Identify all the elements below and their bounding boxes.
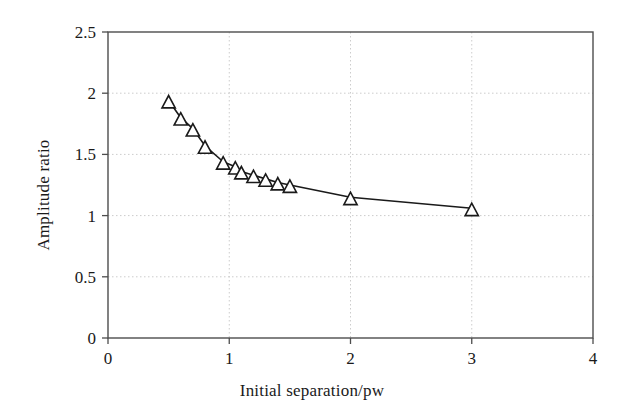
x-tick-label: 1 (225, 349, 234, 368)
amplitude-ratio-line-chart: 0123400.511.522.5 (0, 0, 624, 417)
x-axis-title: Initial separation/pw (0, 381, 624, 401)
y-tick-label: 0.5 (75, 268, 96, 287)
x-tick-label: 2 (346, 349, 355, 368)
data-marker-triangle (465, 203, 478, 215)
data-marker-triangle (198, 141, 211, 153)
y-tick-label: 2.5 (75, 23, 96, 42)
chart-figure: 0123400.511.522.5 Initial separation/pw … (0, 0, 624, 417)
data-marker-triangle (162, 96, 175, 108)
y-tick-label: 1 (88, 207, 97, 226)
y-axis-title: Amplitude ratio (34, 65, 54, 325)
data-series (162, 96, 478, 216)
x-tick-label: 3 (468, 349, 477, 368)
y-tick-label: 2 (88, 84, 97, 103)
x-tick-label: 4 (589, 349, 598, 368)
x-tick-label: 0 (104, 349, 113, 368)
y-tick-label: 0 (88, 329, 97, 348)
y-tick-label: 1.5 (75, 145, 96, 164)
axis-ticks: 0123400.511.522.5 (75, 23, 598, 368)
data-marker-triangle (174, 113, 187, 125)
grid-lines (108, 32, 593, 338)
